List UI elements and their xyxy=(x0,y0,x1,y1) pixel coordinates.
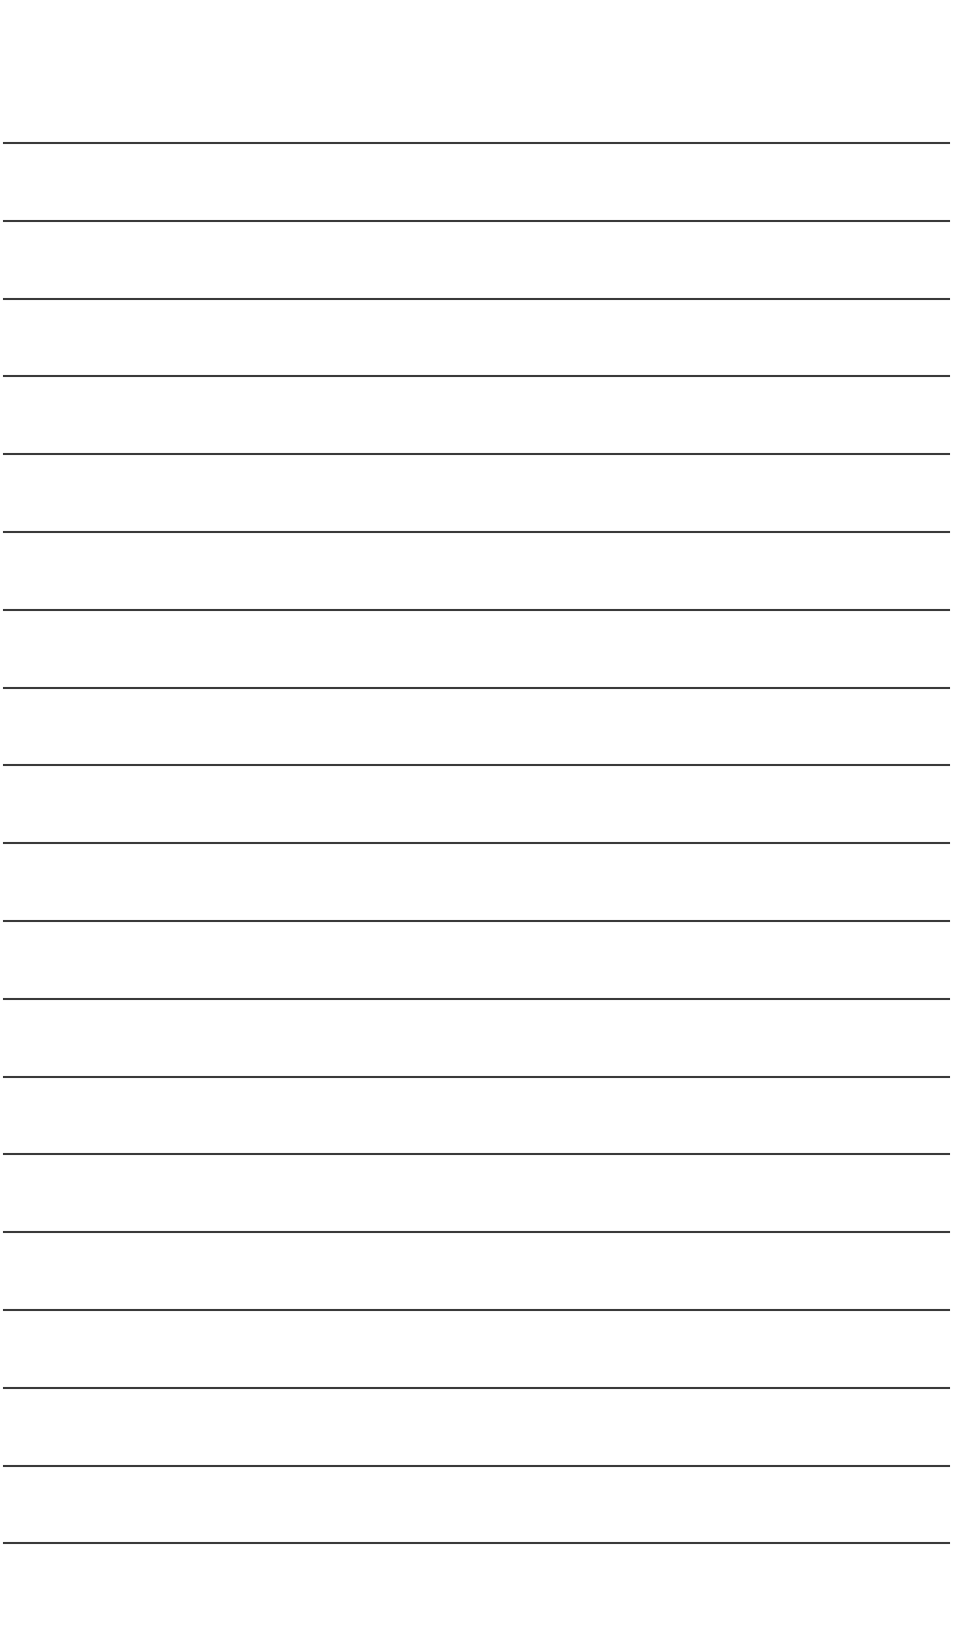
ruled-line xyxy=(3,375,950,377)
ruled-line xyxy=(3,1465,950,1467)
lined-paper-page xyxy=(0,0,953,1632)
ruled-line xyxy=(3,531,950,533)
ruled-line xyxy=(3,1542,950,1544)
ruled-line xyxy=(3,220,950,222)
ruled-line xyxy=(3,998,950,1000)
ruled-line xyxy=(3,764,950,766)
ruled-line xyxy=(3,453,950,455)
ruled-line xyxy=(3,609,950,611)
ruled-line xyxy=(3,1076,950,1078)
ruled-line xyxy=(3,920,950,922)
ruled-line xyxy=(3,142,950,144)
ruled-line xyxy=(3,1153,950,1155)
ruled-line xyxy=(3,687,950,689)
ruled-line xyxy=(3,842,950,844)
ruled-line xyxy=(3,298,950,300)
ruled-line xyxy=(3,1231,950,1233)
ruled-line xyxy=(3,1309,950,1311)
ruled-line xyxy=(3,1387,950,1389)
